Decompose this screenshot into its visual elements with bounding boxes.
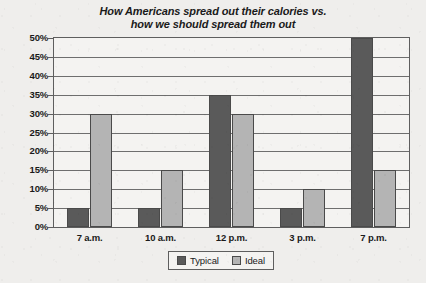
chart-title: How Americans spread out their calories …: [0, 5, 426, 31]
bar-typical-2: [209, 95, 231, 227]
y-axis-tick-label: 45%: [0, 52, 48, 62]
bars-layer: [54, 38, 409, 227]
y-axis-tick-label: 5%: [0, 203, 48, 213]
bar-typical-4: [351, 38, 373, 227]
legend-swatch-ideal-icon: [232, 256, 241, 265]
y-axis-tick-label: 25%: [0, 128, 48, 138]
legend-swatch-typical-icon: [177, 256, 186, 265]
x-axis-tick-label: 10 a.m.: [125, 232, 196, 244]
bar-group: [125, 38, 196, 227]
legend-entry-ideal: Ideal: [232, 255, 265, 266]
bar-ideal-2: [232, 114, 254, 227]
legend-entry-typical: Typical: [177, 255, 219, 266]
y-axis: 50%45%40%35%30%25%20%15%10%5%0%: [0, 37, 48, 228]
legend-label-ideal: Ideal: [245, 255, 265, 266]
y-axis-tick-label: 20%: [0, 146, 48, 156]
x-axis-tick-label: 7 a.m.: [54, 232, 125, 244]
bar-typical-0: [67, 208, 89, 227]
bar-group: [54, 38, 125, 227]
y-axis-tick-label: 35%: [0, 90, 48, 100]
y-axis-tick-label: 0%: [0, 222, 48, 232]
x-axis-tick-label: 12 p.m.: [196, 232, 267, 244]
y-axis-tick-label: 15%: [0, 165, 48, 175]
bar-ideal-4: [374, 170, 396, 227]
y-axis-tick-label: 40%: [0, 71, 48, 81]
x-axis-tick-label: 7 p.m.: [338, 232, 409, 244]
bar-typical-3: [280, 208, 302, 227]
bar-group: [338, 38, 409, 227]
bar-ideal-3: [303, 189, 325, 227]
chart-legend: Typical Ideal: [168, 251, 274, 270]
bar-group: [267, 38, 338, 227]
y-axis-tick-label: 30%: [0, 109, 48, 119]
bar-ideal-0: [90, 114, 112, 227]
x-axis-tick-label: 3 p.m.: [267, 232, 338, 244]
x-axis: 7 a.m.10 a.m.12 p.m.3 p.m.7 p.m.: [54, 232, 409, 246]
legend-label-typical: Typical: [190, 255, 219, 266]
chart-title-line-2: how we should spread them out: [0, 18, 426, 31]
y-axis-tick-label: 50%: [0, 33, 48, 43]
y-axis-tick-label: 10%: [0, 184, 48, 194]
bar-ideal-1: [161, 170, 183, 227]
bar-group: [196, 38, 267, 227]
bar-typical-1: [138, 208, 160, 227]
chart-title-line-1: How Americans spread out their calories …: [0, 5, 426, 18]
